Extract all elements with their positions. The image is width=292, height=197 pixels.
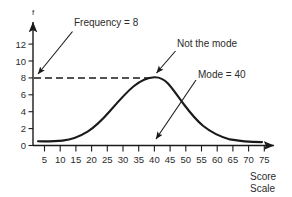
x-tick-label-5: 5 [42,154,47,165]
x-tick-label-30: 30 [118,154,129,165]
not-the-mode-label: Not the mode [177,38,237,49]
y-tick-label-12: 12 [15,39,26,50]
x-tick-label-15: 15 [71,154,82,165]
mode-40-label: Mode = 40 [198,69,246,80]
y-tick-label-4: 4 [21,106,26,117]
x-tick-label-50: 50 [181,154,192,165]
x-axis-tick-labels: 5 10 15 20 25 30 35 40 45 50 55 60 65 70… [42,154,270,165]
x-tick-label-60: 60 [212,154,223,165]
x-tick-label-25: 25 [102,154,113,165]
x-tick-label-10: 10 [55,154,66,165]
y-tick-label-2: 2 [21,123,26,134]
y-tick-label-0: 0 [21,140,26,151]
frequency-distribution-chart: 0 2 4 6 8 10 12 f [0,0,292,197]
x-tick-label-20: 20 [86,154,97,165]
x-axis-title: Score Scale [250,171,277,194]
x-axis-title-line1: Score [250,171,277,182]
x-tick-label-75: 75 [259,154,270,165]
x-tick-label-35: 35 [133,154,144,165]
x-tick-label-45: 45 [165,154,176,165]
frequency-8-label: Frequency = 8 [74,17,139,28]
x-tick-label-65: 65 [228,154,239,165]
x-tick-label-55: 55 [196,154,207,165]
x-tick-label-40: 40 [149,154,160,165]
plot-background [0,0,292,197]
x-axis-title-line2: Scale [250,183,275,194]
y-tick-label-6: 6 [21,89,26,100]
x-tick-label-70: 70 [243,154,254,165]
y-tick-label-8: 8 [21,72,26,83]
y-tick-label-10: 10 [15,56,26,67]
